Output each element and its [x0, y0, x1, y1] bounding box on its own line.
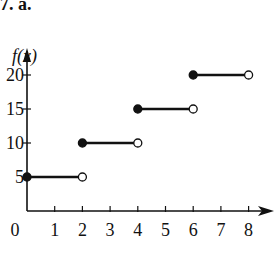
x-tick-label: 3 — [106, 220, 115, 240]
closed-endpoint-icon — [189, 71, 197, 79]
x-tick-label: 5 — [161, 220, 170, 240]
y-tick-label: 20 — [6, 65, 24, 85]
step-segment — [23, 173, 86, 181]
y-tick-label: 15 — [6, 99, 24, 119]
step-segments — [23, 71, 253, 181]
open-endpoint-icon — [78, 173, 86, 181]
step-segment — [134, 105, 197, 113]
x-tick-label: 4 — [133, 220, 142, 240]
ticks: 0123456785101520 — [6, 65, 253, 240]
open-endpoint-icon — [245, 71, 253, 79]
y-tick-label: 10 — [6, 133, 24, 153]
closed-endpoint-icon — [134, 105, 142, 113]
x-tick-label: 0 — [11, 220, 20, 240]
step-segment — [78, 139, 141, 147]
x-tick-label: 8 — [244, 220, 253, 240]
open-endpoint-icon — [134, 139, 142, 147]
y-axis-label: f(x) — [12, 46, 37, 67]
x-tick-label: 2 — [78, 220, 87, 240]
x-tick-label: 7 — [216, 220, 225, 240]
step-function-chart: 0123456785101520 f(x) — [0, 0, 278, 253]
closed-endpoint-icon — [23, 173, 31, 181]
open-endpoint-icon — [189, 105, 197, 113]
axes — [23, 48, 274, 216]
x-tick-label: 6 — [189, 220, 198, 240]
step-segment — [189, 71, 252, 79]
x-tick-label: 1 — [50, 220, 59, 240]
closed-endpoint-icon — [78, 139, 86, 147]
